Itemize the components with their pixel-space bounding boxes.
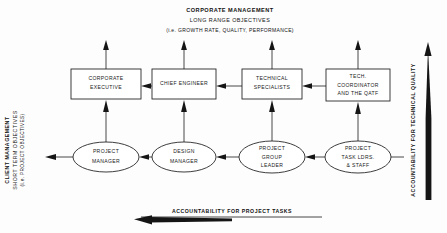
node-project-group-leader-line-1: PROJECT [259,145,285,151]
arrowhead-left-task-leaders-to-group-leader [305,154,315,159]
arrowhead-up-project-manager-column [103,100,109,112]
right-axis-arrow-shaft [426,48,432,200]
node-design-manager-line-1: DESIGN [173,148,195,154]
node-chief-engineer[interactable]: CHIEF ENGINEER [152,69,216,99]
node-project-task-leaders-line-3: & STAFF [346,162,369,168]
node-tech-coordinator-line-2: COORDINATOR [337,82,379,88]
arrowhead-up-design-manager-column [181,100,187,112]
arrowhead-up-corporate-executive [103,40,109,50]
node-technical-specialists-line-1: TECHNICAL [256,75,288,81]
arrowhead-up-group-leader-column [269,100,275,112]
top-row-upward-arrows [103,40,361,69]
arrowhead-left-technical-to-chief [216,83,226,88]
bottom-axis-arrow-shaft [150,217,232,223]
node-design-manager[interactable]: DESIGN MANAGER [152,142,216,172]
header-line-3: (i.e. GROWTH RATE, QUALITY, PERFORMANCE) [166,27,294,33]
right-axis-arrowhead-up [424,42,431,56]
node-corporate-executive-line-1: CORPORATE [88,75,123,81]
node-project-group-leader-line-2: GROUP [262,154,283,160]
accountability-matrix-diagram: CORPORATE MANAGEMENT LONG RANGE OBJECTIV… [0,0,447,233]
node-tech-coordinator[interactable]: TECH. COORDINATOR AND THE QATF [326,69,390,101]
arrowhead-left-project-manager-to-client [45,154,56,160]
node-project-task-leaders-line-2: TASK LDRS. [342,154,375,160]
node-design-manager-line-2: MANAGER [170,158,198,164]
arrowhead-left-chief-to-corporate [141,83,151,88]
client-management-axis: CLIENT MANAGEMENT SHORT TERM OBJECTIVES … [4,110,25,189]
arrowhead-left-design-to-project-manager [139,154,149,159]
arrowhead-up-tech-coordinator [355,40,361,50]
arrowhead-up-technical-specialists [269,40,275,50]
node-corporate-executive[interactable]: CORPORATE EXECUTIVE [71,69,141,99]
node-technical-specialists[interactable]: TECHNICAL SPECIALISTS [242,69,302,99]
node-project-manager-line-2: MANAGER [92,158,120,164]
node-project-manager[interactable]: PROJECT MANAGER [73,142,139,172]
diagram-canvas: CORPORATE MANAGEMENT LONG RANGE OBJECTIV… [0,0,447,233]
node-tech-coordinator-line-1: TECH. [349,73,366,79]
bottom-axis-label: ACCOUNTABILITY FOR PROJECT TASKS [172,208,292,214]
bottom-axis-arrowhead-left [134,215,152,224]
node-corporate-executive-line-2: EXECUTIVE [90,84,122,90]
project-tasks-axis: ACCOUNTABILITY FOR PROJECT TASKS [134,208,322,224]
node-project-manager-line-1: PROJECT [93,148,119,154]
corporate-management-header: CORPORATE MANAGEMENT LONG RANGE OBJECTIV… [166,7,294,33]
node-project-group-leader[interactable]: PROJECT GROUP LEADER [239,141,305,173]
node-technical-specialists-line-2: SPECIALISTS [254,84,291,90]
left-axis-line-1: CLIENT MANAGEMENT [4,116,10,184]
arrowhead-up-task-leaders-column [355,102,361,114]
header-line-2: LONG RANGE OBJECTIVES [190,17,270,23]
arrowhead-up-chief-engineer [181,40,187,50]
left-axis-line-2: SHORT TERM OBJECTIVES [12,110,18,189]
left-axis-line-3: (i.e. PROJECT OBJECTIVES) [20,113,25,186]
node-project-group-leader-line-3: LEADER [261,162,283,168]
node-project-task-leaders-line-1: PROJECT [345,145,371,151]
arrowhead-left-coordinator-to-technical [302,83,312,88]
technical-quality-axis: ACCOUNTABILITY FOR TECHNICAL QUALITY [410,42,432,200]
right-axis-label: ACCOUNTABILITY FOR TECHNICAL QUALITY [410,63,416,196]
arrowhead-left-group-leader-to-design [216,154,226,159]
node-project-task-leaders[interactable]: PROJECT TASK LDRS. & STAFF [325,141,391,173]
column-upward-arrows [103,100,361,142]
node-tech-coordinator-line-3: AND THE QATF [337,90,378,96]
header-line-1: CORPORATE MANAGEMENT [186,7,274,13]
node-chief-engineer-line-1: CHIEF ENGINEER [160,80,208,86]
